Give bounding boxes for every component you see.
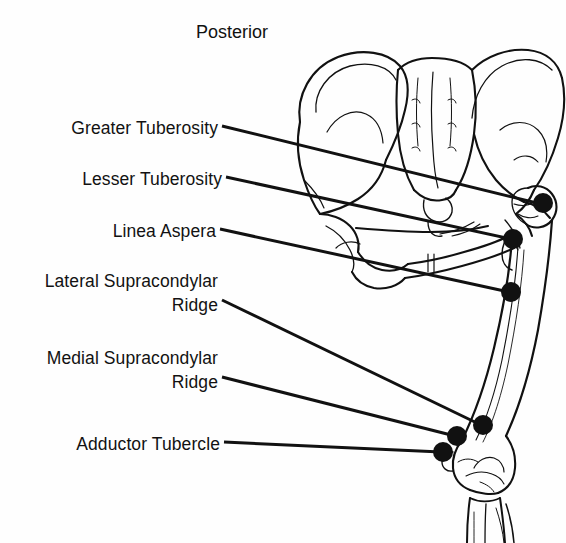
label-greater-tuberosity: Greater Tuberosity xyxy=(0,118,218,139)
label-linea-aspera: Linea Aspera xyxy=(0,221,216,242)
leader-adductor-tubercle xyxy=(224,442,441,452)
label-adductor-tubercle-text: Adductor Tubercle xyxy=(76,434,220,454)
label-linea-aspera-text: Linea Aspera xyxy=(113,221,216,241)
label-medial-supracondylar-ridge: Medial Supracondylar Ridge xyxy=(0,346,218,394)
label-lateral-supracondylar-ridge: Lateral Supracondylar Ridge xyxy=(0,269,218,317)
leader-linea-aspera xyxy=(220,229,509,292)
label-lateral-supracondylar-ridge-line1: Lateral Supracondylar xyxy=(0,269,218,293)
label-lesser-tuberosity-text: Lesser Tuberosity xyxy=(82,169,222,189)
label-medial-supracondylar-ridge-line2: Ridge xyxy=(0,370,218,394)
label-adductor-tubercle: Adductor Tubercle xyxy=(0,434,220,455)
leader-lateral-supracondylar-ridge xyxy=(222,300,481,425)
marker-adductor-tubercle xyxy=(433,442,453,462)
pelvis-outline xyxy=(298,50,564,543)
label-medial-supracondylar-ridge-line1: Medial Supracondylar xyxy=(0,346,218,370)
label-lateral-supracondylar-ridge-line2: Ridge xyxy=(0,293,218,317)
anatomy-figure: Posterior Greater Tuberosity Lesser Tube… xyxy=(0,0,566,543)
marker-lateral-supracondylar-ridge xyxy=(473,415,493,435)
marker-medial-supracondylar-ridge xyxy=(447,426,467,446)
leader-greater-tuberosity xyxy=(222,126,541,204)
leader-medial-supracondylar-ridge xyxy=(222,377,455,436)
label-lesser-tuberosity: Lesser Tuberosity xyxy=(0,169,222,190)
marker-linea-aspera xyxy=(501,282,521,302)
marker-greater-tuberosity xyxy=(533,193,553,213)
label-greater-tuberosity-text: Greater Tuberosity xyxy=(71,118,218,138)
figure-title-posterior: Posterior xyxy=(196,22,268,43)
leader-endpoint-markers xyxy=(433,193,553,462)
marker-lesser-tuberosity xyxy=(503,229,523,249)
